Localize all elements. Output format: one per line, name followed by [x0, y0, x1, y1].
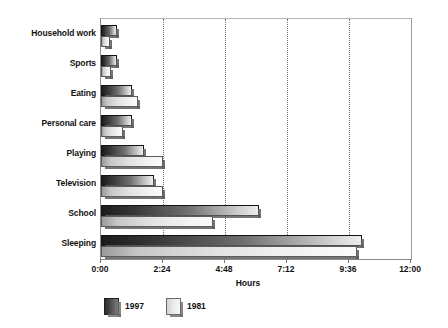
bar-1997[interactable] [101, 115, 132, 126]
bar-fill [101, 96, 138, 107]
bar-group [101, 79, 411, 109]
bar-fill [101, 205, 259, 216]
bar-1997[interactable] [101, 25, 117, 36]
legend-label: 1997 [125, 301, 144, 311]
chart-legend: 19971981 [104, 294, 220, 318]
x-axis-title-text: Hours [236, 278, 261, 288]
legend-label: 1981 [187, 301, 206, 311]
bar-1981[interactable] [101, 66, 111, 77]
legend-swatch-shadow-bottom [170, 314, 183, 317]
x-axis-ticks: 0:002:244:487:129:3612:00 [0, 259, 448, 277]
legend-swatch-icon [104, 298, 119, 315]
category-label: Sleeping [4, 238, 96, 248]
bar-1997[interactable] [101, 175, 154, 186]
bar-chart: Household workSportsEatingPersonal careP… [0, 0, 448, 328]
bar-fill [101, 156, 163, 167]
plot-area [100, 18, 412, 260]
bar-1997[interactable] [101, 85, 132, 96]
category-label: Playing [4, 148, 96, 158]
bar-1981[interactable] [101, 96, 138, 107]
bar-1981[interactable] [101, 246, 357, 257]
bar-fill [101, 36, 110, 47]
category-label: Television [4, 178, 96, 188]
bar-group [101, 109, 411, 139]
bar-group [101, 229, 411, 259]
legend-swatch-icon [166, 298, 181, 315]
x-tick-label: 0:00 [70, 264, 130, 274]
x-tick-mark [410, 259, 411, 263]
bar-group [101, 199, 411, 229]
x-tick-label: 9:36 [318, 264, 378, 274]
bar-fill [101, 145, 144, 156]
x-axis-title: Hours [0, 278, 448, 288]
legend-item[interactable]: 1981 [166, 298, 206, 315]
bar-1981[interactable] [101, 186, 163, 197]
x-tick-label: 7:12 [256, 264, 316, 274]
bar-fill [101, 85, 132, 96]
bar-1997[interactable] [101, 145, 144, 156]
bar-fill [101, 115, 132, 126]
x-tick-label: 12:00 [380, 264, 440, 274]
category-label: Sports [4, 58, 96, 68]
bar-1981[interactable] [101, 126, 123, 137]
bar-1997[interactable] [101, 205, 259, 216]
x-tick-label: 2:24 [132, 264, 192, 274]
bar-fill [101, 216, 213, 227]
x-tick-mark [348, 259, 349, 263]
bar-group [101, 139, 411, 169]
bar-1997[interactable] [101, 55, 117, 66]
x-tick-label: 4:48 [194, 264, 254, 274]
bar-group [101, 49, 411, 79]
category-axis-labels: Household workSportsEatingPersonal careP… [0, 18, 96, 258]
bar-1981[interactable] [101, 216, 213, 227]
x-tick-mark [286, 259, 287, 263]
bar-fill [101, 186, 163, 197]
bar-group [101, 19, 411, 49]
bar-1981[interactable] [101, 156, 163, 167]
bar-fill [101, 25, 117, 36]
category-label: Eating [4, 88, 96, 98]
bar-fill [101, 235, 362, 246]
x-tick-mark [100, 259, 101, 263]
legend-swatch-shadow-bottom [108, 314, 121, 317]
x-tick-mark [162, 259, 163, 263]
category-label: Household work [4, 28, 96, 38]
bar-group [101, 169, 411, 199]
bar-1997[interactable] [101, 235, 362, 246]
bar-fill [101, 175, 154, 186]
category-label: School [4, 208, 96, 218]
legend-item[interactable]: 1997 [104, 298, 144, 315]
category-label: Personal care [4, 118, 96, 128]
x-tick-mark [224, 259, 225, 263]
bar-fill [101, 126, 123, 137]
bar-fill [101, 246, 357, 257]
bar-fill [101, 55, 117, 66]
bar-1981[interactable] [101, 36, 110, 47]
bar-fill [101, 66, 111, 77]
